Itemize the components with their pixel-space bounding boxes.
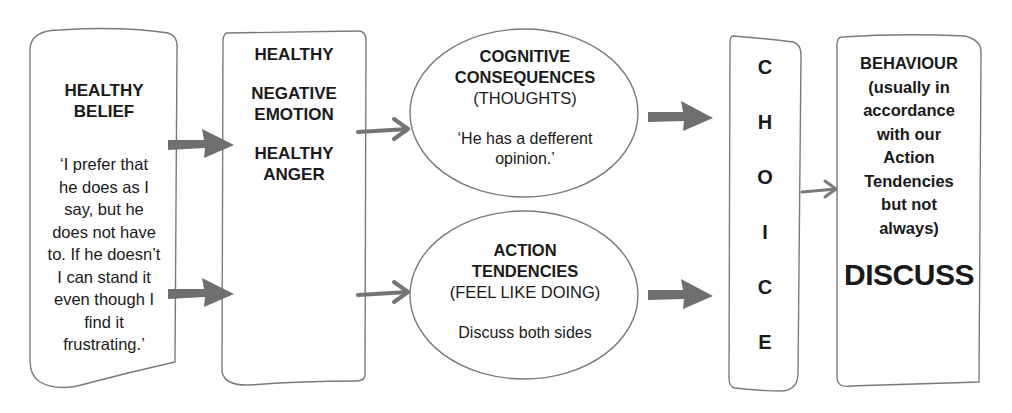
belief-title-line: BELIEF [29,101,179,122]
action-oval-text: ACTION TENDENCIES (FEEL LIKE DOING) Disc… [412,240,638,343]
choice-letter: C [729,275,801,330]
cognitive-body-line: opinion.’ [412,149,638,169]
emotion-box-text: HEALTHY NEGATIVE EMOTION HEALTHY ANGER [221,44,367,185]
behaviour-box-text: BEHAVIOUR (usually in accordance with ou… [836,52,982,292]
choice-letter: E [729,330,801,385]
action-body: Discuss both sides [412,323,638,343]
belief-quote-line: even though I [22,288,186,311]
choice-letter: I [729,220,801,275]
cognitive-subtitle: (THOUGHTS) [412,88,638,109]
emotion-line-emotion: EMOTION [221,104,367,125]
arrow-cognitive-to-choice [648,101,713,131]
behaviour-line: Action [836,146,982,170]
emotion-line-negative: NEGATIVE [221,83,367,104]
belief-title-line: HEALTHY [29,80,179,101]
cognitive-title-line: CONSEQUENCES [412,67,638,88]
choice-letter: O [729,165,801,220]
arrow-action-to-choice [648,279,713,309]
emotion-line-healthy-2: HEALTHY [221,143,367,164]
belief-quote-line: to. If he doesn’t [22,243,186,266]
behaviour-line: BEHAVIOUR [836,52,982,76]
behaviour-line: Tendencies [836,170,982,194]
cognitive-title-line: COGNITIVE [412,46,638,67]
action-title-line: TENDENCIES [412,261,638,282]
cognitive-body-line: ‘He has a defferent [412,129,638,149]
behaviour-line: accordance [836,99,982,123]
belief-quote-line: I can stand it [22,266,186,289]
emotion-line-anger: ANGER [221,164,367,185]
belief-quote-line: find it [22,311,186,334]
belief-title: HEALTHY BELIEF [29,80,179,122]
choice-letter: H [729,110,801,165]
belief-quote-line: does not have [22,221,186,244]
action-subtitle: (FEEL LIKE DOING) [412,282,638,303]
arrow-choice-to-behaviour [802,181,836,197]
belief-quote-line: he does as I [22,176,186,199]
belief-quote-line: say, but he [22,198,186,221]
behaviour-emphasis: DISCUSS [836,258,982,292]
belief-quote-line: ‘I prefer that [22,153,186,176]
behaviour-line: with our [836,123,982,147]
action-title-line: ACTION [412,240,638,261]
choice-box-text: C H O I C E [729,55,801,385]
belief-quote: ‘I prefer that he does as I say, but he … [22,153,186,356]
emotion-line-healthy: HEALTHY [221,44,367,65]
choice-letter: C [729,55,801,110]
behaviour-line: but not [836,193,982,217]
behaviour-line: always) [836,217,982,241]
behaviour-line: (usually in [836,76,982,100]
belief-quote-line: frustrating.’ [22,333,186,356]
cognitive-oval-text: COGNITIVE CONSEQUENCES (THOUGHTS) ‘He ha… [412,46,638,169]
